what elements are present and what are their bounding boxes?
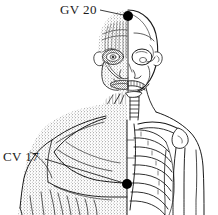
- acupoint-label-gv20: GV 20: [60, 2, 97, 18]
- anatomy-illustration: [0, 0, 218, 215]
- acupoint-marker-cv17[interactable]: [122, 179, 132, 189]
- acupoint-label-cv17: CV 17: [3, 149, 39, 165]
- figure-ink: [16, 8, 204, 215]
- anatomy-figure: GV 20 CV 17: [0, 0, 218, 215]
- acupoint-marker-gv20[interactable]: [123, 11, 133, 21]
